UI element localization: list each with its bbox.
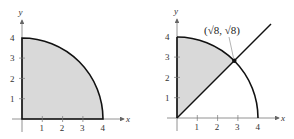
right-shaded-region xyxy=(177,37,234,118)
left-x-axis-label: x xyxy=(125,114,130,124)
right-graph: (√8, √8) 1 2 3 4 1 2 3 4 y x xyxy=(165,6,285,132)
left-x-tick-1: 1 xyxy=(40,123,45,133)
left-y-axis-label: y xyxy=(18,7,23,17)
left-y-tick-3: 3 xyxy=(10,53,15,63)
left-y-tick-4: 4 xyxy=(10,33,15,43)
intersection-label: (√8, √8) xyxy=(204,24,240,37)
right-y-tick-3: 3 xyxy=(165,52,170,62)
left-x-tick-3: 3 xyxy=(80,123,85,133)
intersection-point xyxy=(232,59,236,63)
right-y-tick-1: 1 xyxy=(165,93,170,103)
left-quarter-disk-region xyxy=(22,38,103,119)
diagram-canvas: 1 2 3 4 1 2 3 4 y x (√8, √8) xyxy=(0,0,294,139)
left-y-tick-1: 1 xyxy=(10,94,15,104)
left-x-tick-2: 2 xyxy=(60,123,65,133)
right-x-tick-1: 1 xyxy=(195,122,200,132)
right-x-tick-3: 3 xyxy=(235,122,240,132)
right-y-axis-label: y xyxy=(173,6,178,16)
left-y-tick-2: 2 xyxy=(10,74,15,84)
intersection-leader-line xyxy=(229,37,234,58)
left-graph: 1 2 3 4 1 2 3 4 y x xyxy=(10,7,130,133)
right-x-tick-2: 2 xyxy=(215,122,220,132)
right-x-axis-label: x xyxy=(280,113,285,123)
right-y-tick-2: 2 xyxy=(165,73,170,83)
left-x-tick-4: 4 xyxy=(101,123,106,133)
right-x-tick-4: 4 xyxy=(256,122,261,132)
right-y-tick-4: 4 xyxy=(165,32,170,42)
